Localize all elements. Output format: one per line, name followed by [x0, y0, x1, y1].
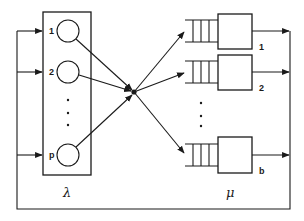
source-label: 1	[49, 26, 54, 36]
server-label: b	[259, 166, 265, 176]
source-label: p	[49, 150, 55, 160]
source-group: 1 2 p λ	[43, 12, 91, 200]
server-ellipsis	[200, 102, 202, 127]
server-box	[218, 55, 252, 90]
source-label: 2	[49, 67, 54, 77]
server-1: 1	[185, 14, 289, 52]
server-2: 2	[185, 55, 289, 93]
queue-buffer-icon	[185, 144, 218, 166]
server-box	[218, 14, 252, 49]
service-rate-label: μ	[226, 185, 234, 200]
server-box	[218, 137, 252, 173]
queueing-diagram: 1 2 p λ	[0, 0, 304, 221]
server-label: 1	[259, 42, 264, 52]
arrival-rate-label: λ	[62, 185, 71, 200]
server-label: 2	[259, 83, 264, 93]
queue-buffer-icon	[185, 61, 218, 83]
queue-buffer-icon	[185, 20, 218, 42]
routing-out	[134, 32, 184, 153]
server-b: b	[185, 137, 289, 176]
server-group: 1 2	[185, 14, 289, 200]
